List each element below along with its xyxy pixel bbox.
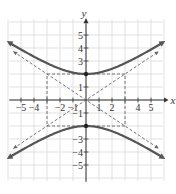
x-tick-label: 5 [149, 102, 154, 113]
x-axis-label: x [170, 94, 176, 106]
x-tick-label: 4 [136, 102, 141, 113]
x-tick-label: −2 [55, 102, 66, 113]
y-tick-label: −4 [72, 147, 83, 158]
x-tick-label: 2 [110, 102, 115, 113]
tick-labels: −5−4−2−112455431−1−3−4−5xy [16, 7, 176, 171]
arrowhead-icon [13, 51, 17, 55]
y-axis-label: y [81, 7, 87, 19]
y-tick-label: 4 [78, 43, 83, 54]
x-tick-label: 1 [97, 102, 102, 113]
y-tick-label: 3 [78, 56, 83, 67]
axes [9, 18, 168, 182]
vertex-point [84, 124, 88, 128]
x-axis-arrow-icon [164, 98, 169, 103]
y-axis-arrow-icon [84, 18, 89, 23]
x-tick-label: −4 [29, 102, 40, 113]
y-tick-label: −3 [72, 134, 83, 145]
y-tick-label: 1 [78, 82, 83, 93]
vertex-point [84, 72, 88, 76]
y-tick-label: −1 [72, 108, 83, 119]
arrowhead-icon [154, 145, 158, 149]
hyperbola-graph: −5−4−2−112455431−1−3−4−5xy [0, 0, 176, 194]
arrowhead-icon [13, 145, 17, 149]
x-tick-label: −5 [16, 102, 27, 113]
y-tick-label: 5 [78, 30, 83, 41]
y-tick-label: −5 [72, 160, 83, 171]
arrowhead-icon [154, 51, 158, 55]
